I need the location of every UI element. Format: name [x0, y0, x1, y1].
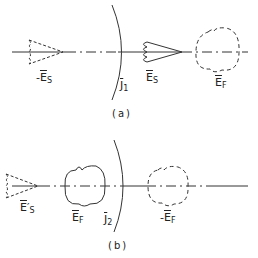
panel-a-drawing	[12, 5, 248, 100]
label-ef: EF	[215, 77, 227, 90]
label-ef-b: EF	[72, 212, 84, 225]
label-minus-es: -ES	[36, 72, 52, 85]
label-j2: J2	[104, 214, 112, 227]
label-j1: J1	[120, 80, 128, 93]
caption-b: (b)	[108, 240, 128, 251]
caption-a: (a)	[112, 108, 132, 119]
diagram-canvas	[0, 0, 258, 258]
pattern-ef	[196, 28, 239, 72]
panel-b-drawing	[6, 140, 248, 232]
label-es-prime: E′S	[20, 202, 35, 215]
label-es: ES	[146, 72, 158, 85]
label-minus-ef: -EF	[160, 212, 176, 225]
